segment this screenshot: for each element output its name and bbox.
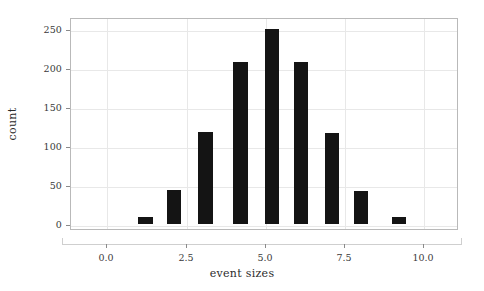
x-tick-label: 10.0 (412, 252, 433, 263)
plot-inner (71, 19, 457, 229)
bar (325, 133, 339, 224)
bar (392, 217, 406, 224)
gridline-y-5 (71, 31, 457, 32)
x-tick-mark-1 (186, 244, 187, 248)
x-tick-label: 2.5 (178, 252, 193, 263)
gridline-x-0 (107, 19, 108, 229)
gridline-y-0 (71, 226, 457, 227)
y-axis-title: count (6, 108, 19, 141)
x-tick-mark-3 (344, 244, 345, 248)
gridline-y-3 (71, 109, 457, 110)
gridline-x-3 (345, 19, 346, 229)
gridline-x-4 (424, 19, 425, 229)
y-tick-label: 0 (56, 219, 62, 230)
x-axis-spine (62, 244, 462, 245)
x-tick-mark-2 (265, 244, 266, 248)
x-tick-label: 5.0 (257, 252, 272, 263)
bar (294, 62, 308, 224)
y-tick-label: 200 (44, 63, 62, 74)
x-axis-title: event sizes (0, 267, 484, 280)
bar (198, 132, 212, 224)
bar (167, 190, 181, 224)
bar (354, 191, 368, 225)
y-tick-label: 50 (50, 180, 62, 191)
x-tick-mark-4 (423, 244, 424, 248)
plot-area (70, 18, 458, 230)
gridline-y-1 (71, 187, 457, 188)
gridline-y-4 (71, 70, 457, 71)
x-tick-label: 0.0 (98, 252, 113, 263)
bar (138, 217, 152, 224)
y-tick-label: 100 (44, 141, 62, 152)
x-axis-spine-cap-left (62, 238, 63, 245)
bar (233, 62, 247, 224)
y-tick-label: 150 (44, 102, 62, 113)
y-tick-label: 250 (44, 24, 62, 35)
gridline-y-2 (71, 148, 457, 149)
chart-canvas: count 050100150200250 0.02.55.07.510.0 e… (0, 0, 484, 291)
x-tick-mark-0 (106, 244, 107, 248)
x-tick-label: 7.5 (336, 252, 351, 263)
bar (265, 29, 279, 224)
x-axis-spine-cap-right (461, 238, 462, 245)
gridline-x-1 (187, 19, 188, 229)
